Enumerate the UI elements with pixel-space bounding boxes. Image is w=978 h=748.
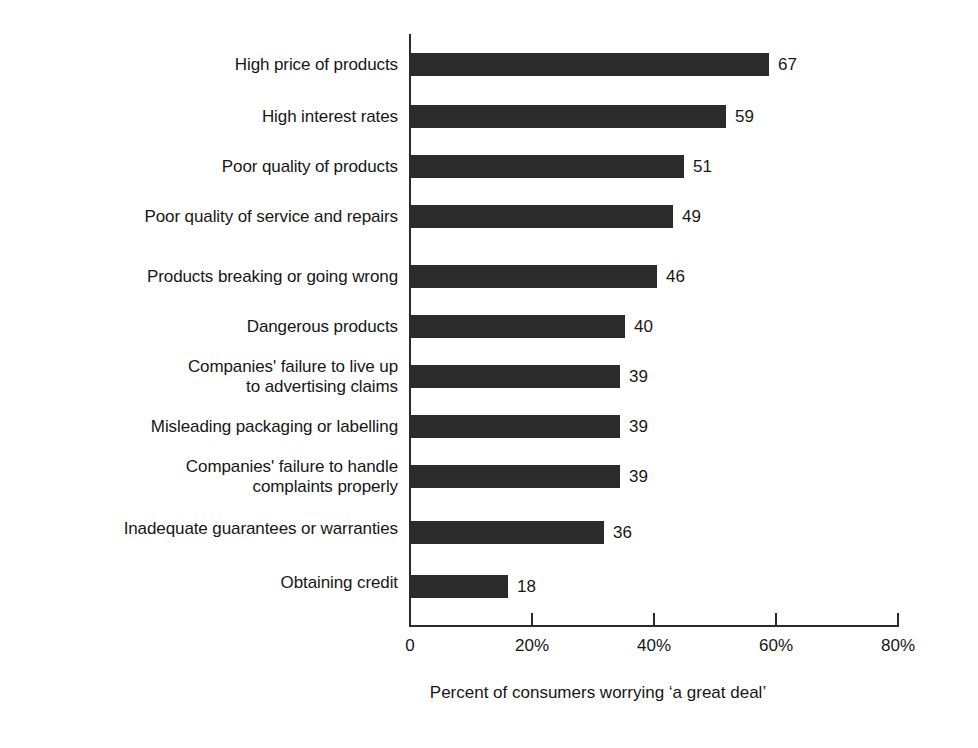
x-axis-tick-label: 40% xyxy=(637,636,671,656)
bar-value-label: 51 xyxy=(693,155,712,178)
category-label: Companies' failure to live up to adverti… xyxy=(6,357,398,397)
category-label: Products breaking or going wrong xyxy=(6,267,398,287)
category-label: Obtaining credit xyxy=(6,573,398,593)
category-label: Companies' failure to handle complaints … xyxy=(6,457,398,497)
plot-area: High price of products High interest rat… xyxy=(0,0,978,748)
x-axis-tick xyxy=(531,613,533,626)
x-axis-caption: Percent of consumers worrying ‘a great d… xyxy=(0,683,978,703)
category-label: Poor quality of service and repairs xyxy=(6,207,398,227)
x-axis-tick-label: 60% xyxy=(759,636,793,656)
x-axis-tick xyxy=(409,613,411,626)
bar xyxy=(411,105,726,128)
bar-value-label: 49 xyxy=(682,205,701,228)
bar-value-label: 46 xyxy=(666,265,685,288)
y-axis-line xyxy=(409,34,411,626)
x-axis-caption-text: Percent of consumers worrying ‘a great d… xyxy=(430,683,766,703)
bar xyxy=(411,521,604,544)
bar xyxy=(411,365,620,388)
bar xyxy=(411,465,620,488)
bar-value-label: 39 xyxy=(629,365,648,388)
chart-container: High price of products High interest rat… xyxy=(0,0,978,748)
bar xyxy=(411,415,620,438)
bar-value-label: 39 xyxy=(629,465,648,488)
category-label: Inadequate guarantees or warranties xyxy=(6,519,398,539)
bar-value-label: 36 xyxy=(613,521,632,544)
category-label: Poor quality of products xyxy=(6,157,398,177)
x-axis-tick-label: 80% xyxy=(881,636,915,656)
category-label: Dangerous products xyxy=(6,317,398,337)
bar-value-label: 40 xyxy=(634,315,653,338)
category-label: High interest rates xyxy=(6,107,398,127)
x-axis-tick xyxy=(653,613,655,626)
bar xyxy=(411,155,684,178)
bar xyxy=(411,575,508,598)
x-axis-tick xyxy=(897,613,899,626)
x-axis-tick xyxy=(775,613,777,626)
bar xyxy=(411,205,673,228)
bar xyxy=(411,315,625,338)
bar-value-label: 18 xyxy=(517,575,536,598)
bar xyxy=(411,53,769,76)
bar-value-label: 39 xyxy=(629,415,648,438)
bar-value-label: 67 xyxy=(778,53,797,76)
x-axis-tick-label: 20% xyxy=(515,636,549,656)
category-label: High price of products xyxy=(6,55,398,75)
bar xyxy=(411,265,657,288)
category-label: Misleading packaging or labelling xyxy=(6,417,398,437)
bar-value-label: 59 xyxy=(735,105,754,128)
x-axis-tick-label: 0 xyxy=(405,636,414,656)
